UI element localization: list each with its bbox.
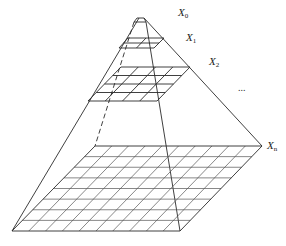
pyramid-diagram bbox=[0, 0, 286, 246]
layer-x2 bbox=[88, 67, 190, 101]
label-xn: Xn bbox=[267, 140, 277, 153]
label-x0: X0 bbox=[178, 7, 188, 20]
label-x2: X2 bbox=[209, 56, 219, 69]
label-x1: X1 bbox=[186, 32, 196, 45]
ellipsis: ... bbox=[238, 82, 246, 93]
layer-x0 bbox=[134, 18, 146, 22]
layer-xn bbox=[22, 146, 251, 231]
edge-front bbox=[146, 22, 180, 231]
